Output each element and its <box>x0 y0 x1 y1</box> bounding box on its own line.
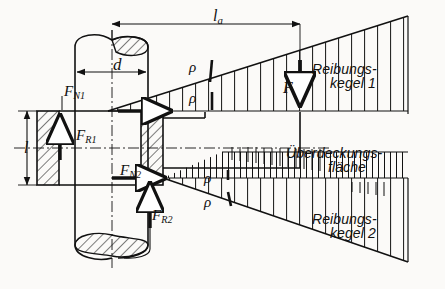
angle-label-rho-4: ρ <box>204 194 211 211</box>
angle-label-rho-3: ρ <box>204 170 211 187</box>
angle-label-rho-2: ρ <box>189 90 196 107</box>
force-label-F: F <box>283 80 293 96</box>
angle-label-rho-1: ρ <box>189 59 196 76</box>
annotation-line-2: kegel 2 <box>312 226 377 240</box>
shaft <box>75 35 148 260</box>
dimension-label-l: l <box>24 140 28 156</box>
annotation-ueberdeckungsflaeche: Überdeckungs- fläche <box>286 146 382 175</box>
annotation-line-2: kegel 1 <box>312 76 377 90</box>
annotation-line-1: Überdeckungs- <box>286 146 382 160</box>
force-label-FN2: FN2 <box>120 163 141 180</box>
dimension-label-la: la <box>213 8 223 26</box>
force-label-FR2: FR2 <box>152 208 173 225</box>
annotation-line-1: Reibungs- <box>312 62 377 76</box>
annotation-reibungskegel-1: Reibungs- kegel 1 <box>312 62 377 91</box>
figure-canvas: la d l FN1 FR1 FN2 FR2 F ρ ρ ρ ρ Reibung… <box>0 0 445 289</box>
force-label-FN1: FN1 <box>64 84 85 101</box>
annotation-line-1: Reibungs- <box>312 212 377 226</box>
annotation-line-2: fläche <box>286 160 382 174</box>
dimension-label-d: d <box>113 56 122 73</box>
annotation-reibungskegel-2: Reibungs- kegel 2 <box>312 212 377 241</box>
force-label-FR1: FR1 <box>76 128 97 145</box>
